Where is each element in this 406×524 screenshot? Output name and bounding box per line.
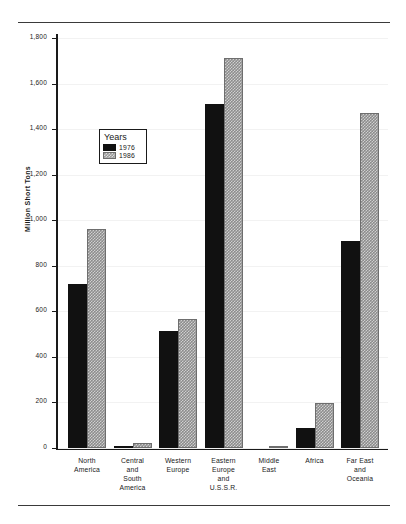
y-axis-tick-label: 800 (36, 261, 47, 268)
legend-item-1976: 1976 (103, 144, 143, 151)
category-label-line: and (195, 474, 253, 483)
bar-group (159, 34, 197, 448)
y-axis-tick-label: 400 (36, 352, 47, 359)
y-axis-tick-label: 1,600 (30, 79, 47, 86)
y-axis-tick: 1,400 (52, 129, 57, 130)
bar-1976-far-east-and-oceania[interactable] (341, 241, 360, 448)
bar-1986-central-and-south-america[interactable] (133, 443, 152, 448)
bar-1976-western-europe[interactable] (159, 331, 178, 448)
bar-group (205, 34, 243, 448)
legend-swatch-1986 (103, 152, 116, 159)
bar-1986-middle-east[interactable] (269, 446, 288, 448)
bar-1986-eastern-europe-and-u-s-s-r[interactable] (224, 58, 243, 448)
y-axis-tick: 1,600 (52, 84, 57, 85)
category-label-line: U.S.S.R. (195, 483, 253, 492)
figure-top-rule (18, 22, 390, 23)
bar-group (341, 34, 379, 448)
category-label-line: Oceania (331, 474, 389, 483)
legend-label-1976: 1976 (119, 144, 135, 151)
y-axis-tick: 1,000 (52, 220, 57, 221)
category-label-line: America (104, 483, 162, 492)
legend-label-1986: 1986 (119, 152, 135, 159)
legend-item-1986: 1986 (103, 152, 143, 159)
y-axis-tick: 0 (52, 448, 57, 449)
legend-title: Years (103, 132, 143, 142)
y-axis-tick: 1,800 (52, 38, 57, 39)
y-axis-line (56, 34, 58, 450)
bar-1986-far-east-and-oceania[interactable] (360, 113, 379, 448)
bar-1986-western-europe[interactable] (178, 319, 197, 448)
bar-1976-eastern-europe-and-u-s-s-r[interactable] (205, 104, 224, 448)
bar-group (114, 34, 152, 448)
plot-area: 02004006008001,0001,2001,4001,6001,800 (56, 34, 388, 450)
bar-1986-north-america[interactable] (87, 229, 106, 448)
y-axis-tick-label: 1,800 (30, 33, 47, 40)
gridline (58, 448, 388, 449)
category-label-line: and (331, 465, 389, 474)
bar-1986-africa[interactable] (315, 403, 334, 448)
y-axis-tick-label: 1,200 (30, 170, 47, 177)
figure-bottom-rule (18, 505, 390, 506)
y-axis-tick: 600 (52, 311, 57, 312)
bar-1976-central-and-south-america[interactable] (114, 446, 133, 448)
legend-swatch-1976 (103, 144, 116, 151)
bar-1976-africa[interactable] (296, 428, 315, 448)
bar-1976-north-america[interactable] (68, 284, 87, 448)
y-axis-tick-label: 1,000 (30, 215, 47, 222)
y-axis-tick: 1,200 (52, 175, 57, 176)
y-axis-tick: 400 (52, 357, 57, 358)
y-axis-tick-label: 200 (36, 397, 47, 404)
bar-group (296, 34, 334, 448)
category-label-line: Far East (331, 456, 389, 465)
chart-legend: Years 1976 1986 (99, 129, 147, 164)
category-label-line: South (104, 474, 162, 483)
y-axis-tick-label: 1,400 (30, 124, 47, 131)
y-axis-tick-label: 600 (36, 306, 47, 313)
bar-group (68, 34, 106, 448)
y-axis-tick-label: 0 (43, 443, 47, 450)
category-label: Far EastandOceania (331, 456, 389, 483)
y-axis-tick: 200 (52, 402, 57, 403)
bar-group (250, 34, 288, 448)
y-axis-tick: 800 (52, 266, 57, 267)
category-label-line: East (240, 465, 298, 474)
bar-chart-figure: Million Short Tons 02004006008001,0001,2… (0, 0, 406, 524)
